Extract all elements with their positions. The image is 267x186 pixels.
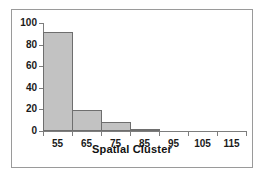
x-tick-mark [72, 132, 73, 136]
y-tick-label: 60 [26, 61, 37, 71]
bar [72, 110, 102, 131]
x-tick-mark [217, 132, 218, 136]
x-tick-mark [159, 132, 160, 136]
x-tick-mark [43, 132, 44, 136]
bar [43, 32, 73, 131]
bar [101, 122, 131, 131]
bar [130, 129, 160, 131]
x-tick-mark [101, 132, 102, 136]
plot-area: 020406080100 5565758595105115 [43, 23, 247, 132]
y-tick-label: 0 [31, 126, 37, 136]
chart-figure-frame: 020406080100 5565758595105115 Spatial Cl… [11, 9, 253, 168]
x-tick-mark [246, 132, 247, 136]
y-tick-label: 40 [26, 83, 37, 93]
y-tick-label: 100 [20, 18, 37, 28]
y-tick-label: 80 [26, 40, 37, 50]
x-axis-title: Spatial Cluster [12, 143, 252, 155]
y-tick-mark [39, 23, 43, 24]
x-tick-mark [130, 132, 131, 136]
x-tick-mark [188, 132, 189, 136]
y-tick-label: 20 [26, 104, 37, 114]
